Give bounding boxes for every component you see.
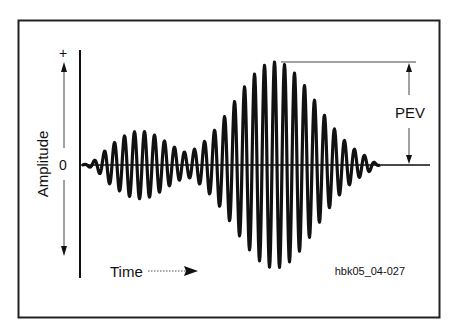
pev-label: PEV bbox=[395, 104, 425, 121]
x-axis-label: Time bbox=[110, 263, 143, 280]
y-axis-label: Amplitude bbox=[34, 131, 51, 198]
waveform-diagram: + 0 Amplitude PEV Time hbk05_04-027 bbox=[0, 0, 454, 330]
arrow-up-icon bbox=[406, 63, 412, 72]
y-plus-label: + bbox=[59, 45, 67, 61]
arrow-down-icon bbox=[406, 155, 412, 164]
y-zero-label: 0 bbox=[59, 157, 67, 173]
arrow-up-icon bbox=[61, 62, 67, 72]
arrow-down-icon bbox=[61, 246, 67, 256]
arrow-right-icon bbox=[184, 266, 198, 276]
figure-id: hbk05_04-027 bbox=[335, 265, 405, 277]
